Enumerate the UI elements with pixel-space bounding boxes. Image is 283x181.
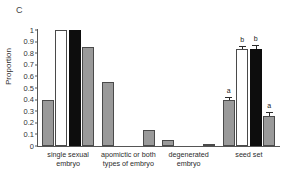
y-axis-tick-label: 0.7 [0, 60, 34, 69]
bar [250, 49, 262, 146]
bar [162, 140, 174, 146]
y-axis-tick-mark [35, 134, 38, 135]
y-axis-tick-mark [35, 30, 38, 31]
y-axis-tick-mark [35, 122, 38, 123]
bar [102, 82, 114, 146]
y-axis-tick-label: 0.5 [0, 84, 34, 93]
y-axis-tick-label: 1 [0, 26, 34, 35]
bar [203, 144, 215, 146]
y-axis-tick-label: 0.3 [0, 107, 34, 116]
bar [42, 100, 54, 146]
y-axis-tick-mark [35, 53, 38, 54]
y-axis-tick-label: 0.9 [0, 37, 34, 46]
category-label-line: seed set [214, 150, 283, 159]
bar [69, 30, 81, 146]
y-axis-tick-mark [35, 99, 38, 100]
y-axis-tick-label: 0.4 [0, 95, 34, 104]
y-axis-tick-mark [35, 64, 38, 65]
y-axis-tick-mark [35, 88, 38, 89]
significance-letter: a [227, 87, 231, 94]
y-axis-tick-mark [35, 111, 38, 112]
significance-letter: a [267, 102, 271, 109]
y-axis-tick-label: 0.2 [0, 118, 34, 127]
y-axis-tick-mark [35, 41, 38, 42]
plot-area: abba [38, 30, 279, 146]
x-axis-line [37, 146, 280, 147]
y-axis-tick-mark [35, 146, 38, 147]
y-axis-tick-label: 0 [0, 142, 34, 151]
bar [55, 30, 67, 146]
figure-panel-c: C Proportion 00.10.20.30.40.50.60.70.80.… [0, 0, 283, 181]
error-bar-cap [239, 46, 246, 47]
bar [236, 49, 248, 146]
bar [82, 47, 94, 146]
bar [143, 130, 155, 146]
y-axis-tick-label: 0.1 [0, 130, 34, 139]
y-axis-tick-label: 0.8 [0, 49, 34, 58]
error-bar-cap [225, 97, 232, 98]
error-bar-cap [252, 45, 259, 46]
y-axis-tick-mark [35, 76, 38, 77]
x-axis-category-label: seed set [214, 150, 283, 159]
category-label-line: embryo [154, 159, 224, 168]
significance-letter: b [254, 35, 258, 42]
error-bar-cap [266, 112, 273, 113]
bar [263, 116, 275, 146]
bar [223, 100, 235, 146]
significance-letter: b [240, 36, 244, 43]
panel-label: C [16, 5, 23, 15]
y-axis-tick-label: 0.6 [0, 72, 34, 81]
